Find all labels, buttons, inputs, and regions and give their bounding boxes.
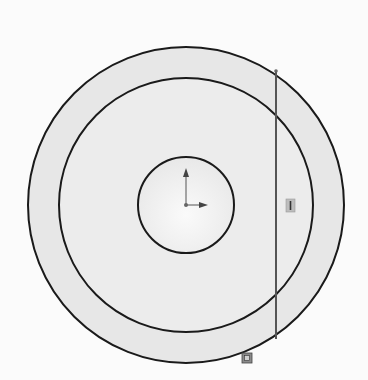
vertical-relation-icon[interactable] bbox=[286, 199, 295, 212]
coincident-relation-icon[interactable] bbox=[242, 353, 252, 363]
sketch-canvas bbox=[0, 0, 368, 380]
